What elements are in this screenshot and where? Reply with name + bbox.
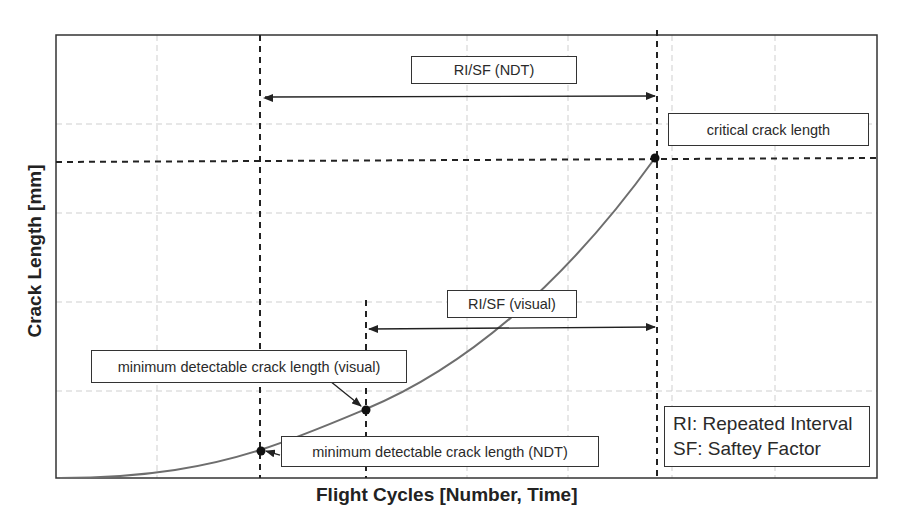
label-min-ndt: minimum detectable crack length (NDT) bbox=[281, 436, 599, 467]
legend-ri: RI: Repeated Interval bbox=[673, 411, 861, 436]
critical-point bbox=[651, 154, 660, 163]
visual-label-leader bbox=[330, 381, 361, 406]
label-ri-sf-ndt: RI/SF (NDT) bbox=[411, 56, 577, 84]
legend-sf: SF: Saftey Factor bbox=[673, 436, 861, 461]
label-critical-crack-length: critical crack length bbox=[668, 113, 869, 146]
ndt-detection-point bbox=[257, 447, 266, 456]
y-axis-label: Crack Length [mm] bbox=[24, 156, 46, 346]
arrowhead-left-ndt bbox=[263, 94, 273, 102]
ndt-label-leader bbox=[266, 451, 280, 455]
arrowhead-left-visual bbox=[368, 325, 378, 333]
ri-sf-visual-arrow bbox=[369, 327, 655, 329]
visual-detection-point bbox=[362, 406, 371, 415]
label-min-visual: minimum detectable crack length (visual) bbox=[91, 350, 407, 383]
label-ri-sf-visual: RI/SF (visual) bbox=[447, 290, 577, 318]
ri-sf-ndt-arrow bbox=[265, 96, 655, 97]
crack-growth-curve bbox=[60, 158, 655, 478]
x-axis-label: Flight Cycles [Number, Time] bbox=[316, 484, 577, 506]
legend-box: RI: Repeated Interval SF: Saftey Factor bbox=[664, 406, 870, 467]
